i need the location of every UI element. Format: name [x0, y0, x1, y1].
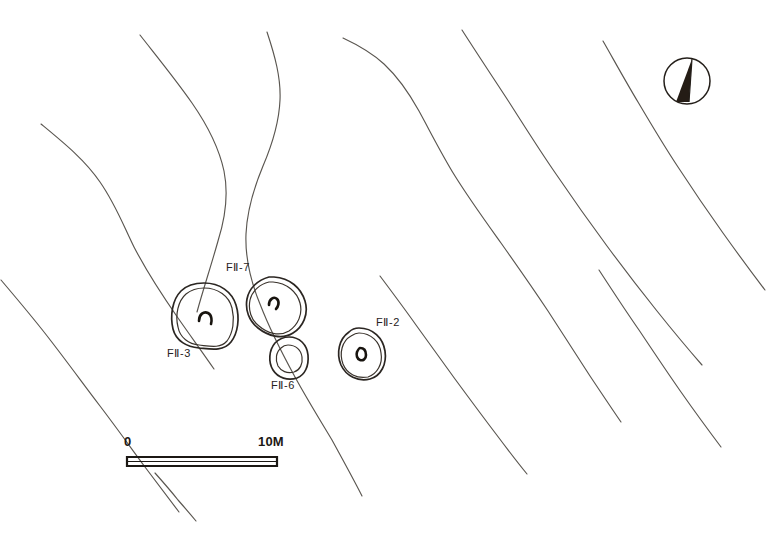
contour-line — [155, 473, 196, 521]
feature-f2-7-hearth-icon — [269, 298, 279, 309]
feature-f2-6[interactable]: FⅡ-6 — [270, 337, 308, 391]
feature-f2-6-inner-outline — [276, 345, 302, 373]
contour-line — [246, 32, 362, 496]
scale-bar-end-label: 10M — [258, 434, 284, 449]
site-map-container: FⅡ-3 FⅡ-7 FⅡ-6 FⅡ-2 0 10M — [0, 0, 776, 534]
feature-f2-6-label: FⅡ-6 — [271, 379, 295, 391]
feature-f2-7-label: FⅡ-7 — [226, 261, 250, 273]
scale-bar: 0 10M — [124, 434, 284, 467]
feature-f2-3-hearth-icon — [199, 312, 212, 324]
feature-f2-2-outer-outline — [339, 328, 386, 380]
feature-f2-3-label: FⅡ-3 — [167, 347, 191, 359]
contour-line — [599, 270, 721, 447]
contour-line — [1, 280, 179, 512]
feature-f2-2-hearth-icon — [357, 348, 366, 360]
contour-line — [140, 35, 226, 312]
contour-line — [380, 276, 527, 474]
feature-f2-2-label: FⅡ-2 — [376, 316, 400, 328]
scale-bar-start-label: 0 — [124, 434, 131, 449]
contour-line-group — [1, 30, 765, 521]
north-arrow — [664, 58, 710, 104]
feature-f2-2-inner-outline — [341, 333, 381, 377]
contour-line — [462, 30, 702, 365]
feature-f2-3-inner-outline — [177, 288, 234, 346]
feature-f2-2[interactable]: FⅡ-2 — [339, 316, 400, 380]
contour-line — [603, 41, 765, 290]
site-map-canvas: FⅡ-3 FⅡ-7 FⅡ-6 FⅡ-2 0 10M — [0, 0, 776, 534]
contour-line — [41, 124, 214, 369]
feature-f2-7-inner-outline — [249, 282, 300, 334]
